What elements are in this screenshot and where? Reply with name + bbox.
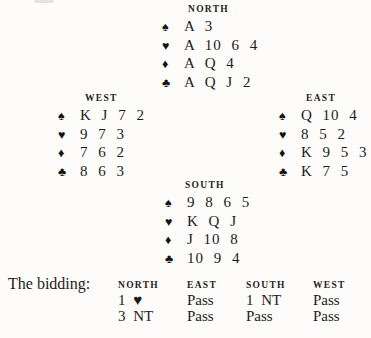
- suit-row: ♣ 8 6 3: [58, 162, 145, 181]
- spade-icon: ♠: [165, 194, 187, 213]
- bidding-column-south: SOUTH 1 NT Pass: [246, 279, 316, 324]
- suit-row: ♥ K Q J: [165, 212, 250, 231]
- hand-label-south: SOUTH: [185, 179, 250, 191]
- suit-row: ♥ 8 5 2: [279, 125, 368, 144]
- bidding-caption: The bidding:: [8, 275, 90, 293]
- suit-row: ♦ 7 6 2: [58, 143, 145, 162]
- cards-west-diamonds: 7 6 2: [80, 143, 125, 162]
- bidding-column-north: NORTH 1 ♥ 3 NT: [118, 279, 188, 324]
- cards-west-hearts: 9 7 3: [80, 125, 125, 144]
- cards-north-hearts: A 10 6 4: [184, 36, 258, 55]
- bidding-header-south: SOUTH: [246, 279, 316, 293]
- bid-south-1: 1 NT: [246, 293, 316, 309]
- suit-row: ♠ A 3: [162, 17, 258, 36]
- suit-row: ♣ K 7 5: [279, 162, 368, 181]
- hand-west: WEST ♠ K J 7 2 ♥ 9 7 3 ♦ 7 6 2 ♣ 8 6 3: [58, 92, 145, 180]
- cards-west-clubs: 8 6 3: [80, 162, 125, 181]
- cards-south-diamonds: J 10 8: [187, 230, 239, 249]
- cards-east-hearts: 8 5 2: [301, 125, 346, 144]
- hand-label-east: EAST: [306, 92, 368, 104]
- club-icon: ♣: [165, 250, 187, 269]
- hand-south: SOUTH ♠ 9 8 6 5 ♥ K Q J ♦ J 10 8 ♣ 10 9 …: [165, 179, 250, 267]
- diamond-icon: ♦: [279, 144, 301, 163]
- club-icon: ♣: [279, 163, 301, 182]
- bidding-column-west: WEST Pass Pass: [313, 279, 371, 324]
- diamond-icon: ♦: [165, 231, 187, 250]
- spade-icon: ♠: [162, 18, 184, 37]
- cards-east-diamonds: K 9 5 3: [301, 143, 368, 162]
- suit-row: ♦ K 9 5 3: [279, 143, 368, 162]
- heart-icon: ♥: [165, 213, 187, 232]
- bid-south-2: Pass: [246, 309, 316, 325]
- suit-row: ♣ 10 9 4: [165, 249, 250, 268]
- hand-label-west: WEST: [85, 92, 145, 104]
- scan-artifact: [34, 0, 54, 3]
- heart-icon: ♥: [279, 126, 301, 145]
- cards-north-clubs: A Q J 2: [184, 73, 251, 92]
- bidding-header-west: WEST: [313, 279, 371, 293]
- cards-south-hearts: K Q J: [187, 212, 237, 231]
- heart-icon: ♥: [162, 37, 184, 56]
- spade-icon: ♠: [58, 107, 80, 126]
- suit-row: ♥ 9 7 3: [58, 125, 145, 144]
- suit-row: ♦ A Q 4: [162, 54, 258, 73]
- spade-icon: ♠: [279, 107, 301, 126]
- bid-north-1: 1 ♥: [118, 293, 188, 309]
- club-icon: ♣: [58, 163, 80, 182]
- hand-label-north: NORTH: [188, 3, 258, 15]
- hand-north: NORTH ♠ A 3 ♥ A 10 6 4 ♦ A Q 4 ♣ A Q J 2: [162, 3, 258, 91]
- cards-east-clubs: K 7 5: [301, 162, 349, 181]
- suit-row: ♠ K J 7 2: [58, 106, 145, 125]
- cards-south-spades: 9 8 6 5: [187, 193, 250, 212]
- bid-west-2: Pass: [313, 309, 371, 325]
- suit-row: ♥ A 10 6 4: [162, 36, 258, 55]
- suit-row: ♦ J 10 8: [165, 230, 250, 249]
- cards-west-spades: K J 7 2: [80, 106, 145, 125]
- bid-north-2: 3 NT: [118, 309, 188, 325]
- club-icon: ♣: [162, 74, 184, 93]
- suit-row: ♠ Q 10 4: [279, 106, 368, 125]
- cards-south-clubs: 10 9 4: [187, 249, 241, 268]
- diamond-icon: ♦: [58, 144, 80, 163]
- diamond-icon: ♦: [162, 55, 184, 74]
- bid-west-1: Pass: [313, 293, 371, 309]
- hand-east: EAST ♠ Q 10 4 ♥ 8 5 2 ♦ K 9 5 3 ♣ K 7 5: [279, 92, 368, 180]
- cards-north-diamonds: A Q 4: [184, 54, 235, 73]
- bidding-header-north: NORTH: [118, 279, 188, 293]
- heart-icon: ♥: [58, 126, 80, 145]
- cards-east-spades: Q 10 4: [301, 106, 358, 125]
- suit-row: ♣ A Q J 2: [162, 73, 258, 92]
- suit-row: ♠ 9 8 6 5: [165, 193, 250, 212]
- cards-north-spades: A 3: [184, 17, 213, 36]
